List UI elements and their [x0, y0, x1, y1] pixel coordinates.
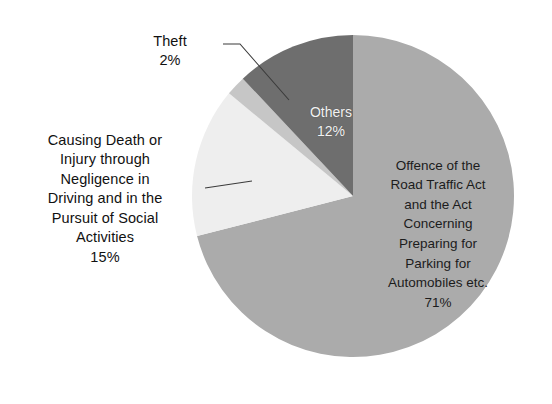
- pie-label-causing-death-negligence-text: Causing Death or Injury through Negligen…: [48, 132, 163, 246]
- pie-label-road-traffic-act-text: Offence of the Road Traffic Act and the …: [388, 158, 488, 291]
- pie-label-others-text: Others: [310, 104, 352, 120]
- pie-chart-figure: Theft 2% Causing Death or Injury through…: [0, 0, 552, 404]
- pie-label-causing-death-negligence: Causing Death or Injury through Negligen…: [6, 111, 204, 287]
- pie-label-others: Others 12%: [283, 84, 379, 160]
- pie-label-causing-death-negligence-percent: 15%: [6, 248, 204, 268]
- pie-label-road-traffic-act: Offence of the Road Traffic Act and the …: [372, 136, 504, 332]
- pie-label-theft-percent: 2%: [118, 51, 222, 71]
- pie-label-road-traffic-act-percent: 71%: [372, 293, 504, 313]
- pie-label-others-percent: 12%: [283, 122, 379, 141]
- pie-label-theft-text: Theft: [153, 33, 187, 49]
- pie-label-theft: Theft 2%: [118, 12, 222, 90]
